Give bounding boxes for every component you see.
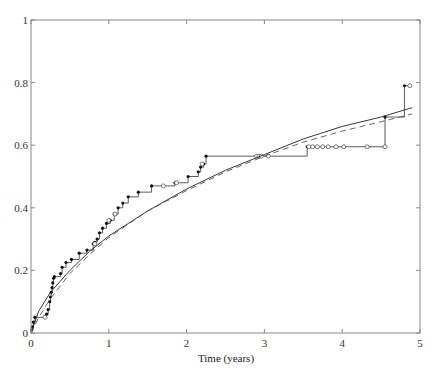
y-tick-label: 0.2 [14,264,28,276]
censored-marker [315,145,319,149]
plot-area [30,84,412,333]
event-marker [98,231,101,234]
event-marker [403,84,406,87]
chart: 01234500.20.40.60.81 Time (years) [0,0,438,375]
censored-marker [311,145,315,149]
event-marker [197,170,200,173]
censored-marker [326,145,330,149]
x-tick-label: 2 [184,337,190,349]
censored-marker [174,181,178,185]
y-tick-label: 1 [23,14,29,26]
y-tick-label: 0 [23,327,29,339]
censored-marker [200,162,204,166]
event-marker [61,266,64,269]
event-marker [78,252,81,255]
event-marker [127,195,130,198]
x-tick-label: 0 [28,337,34,349]
event-marker [137,191,140,194]
event-marker [204,155,207,158]
x-tick-label: 3 [262,337,268,349]
x-tick-label: 1 [106,337,112,349]
event-marker [96,238,99,241]
y-tick-label: 0.4 [14,202,28,214]
axes-frame [31,20,420,333]
censored-marker [43,315,47,319]
x-axis-title: Time (years) [198,352,254,365]
censored-marker [408,84,412,88]
event-marker [85,248,88,251]
event-marker [59,272,62,275]
step-curve [31,86,410,333]
event-marker [64,261,67,264]
event-marker [150,184,153,187]
x-tick-label: 4 [339,337,345,349]
censored-marker [107,218,111,222]
y-tick-label: 0.6 [14,139,28,151]
censored-marker [307,145,311,149]
event-marker [117,206,120,209]
y-tick-label: 0.8 [14,77,28,89]
censored-marker [365,145,369,149]
axes: 01234500.20.40.60.81 [14,14,423,349]
event-marker [53,275,56,278]
censored-marker [342,145,346,149]
censored-marker [161,184,165,188]
censored-marker [383,145,387,149]
event-marker [70,258,73,261]
censored-marker [113,212,117,216]
censored-marker [334,145,338,149]
event-marker [51,281,54,284]
event-marker [121,202,124,205]
censored-marker [321,145,325,149]
event-marker [47,308,50,311]
event-marker [101,227,104,230]
censored-marker [93,242,97,246]
x-tick-label: 5 [417,337,423,349]
solid-fit-curve [31,108,412,333]
event-marker [187,175,190,178]
